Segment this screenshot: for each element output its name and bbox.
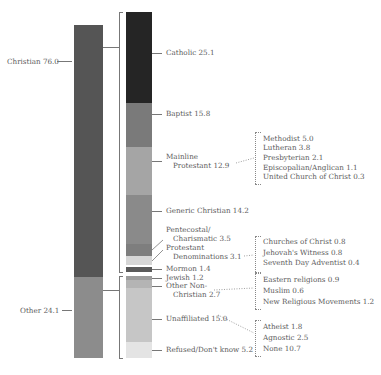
mainline-item: Methodist 5.0: [263, 134, 314, 143]
mainline-item: United Church of Christ 0.3: [263, 172, 365, 181]
unaffiliated-item: None 10.7: [263, 344, 301, 353]
leader-jewish: [152, 278, 162, 279]
other-nc-item: Muslim 0.6: [263, 286, 304, 295]
leader-refused: [152, 350, 162, 351]
leader-unaffiliated: [152, 319, 162, 320]
denom-item: Seventh Day Adventist 0.4: [263, 258, 360, 267]
leader-other-nc: [152, 286, 162, 287]
denom-item: Jehovah's Witness 0.8: [263, 248, 342, 257]
unaffiliated-item: Agnostic 2.5: [263, 333, 308, 342]
label-unaffiliated: Unaffiliated 15.0: [166, 314, 227, 323]
mainline-item: Presbyterian 2.1: [263, 153, 323, 162]
denom-item: Churches of Christ 0.8: [263, 237, 346, 246]
leader-mormon: [152, 269, 162, 270]
bracket-other-nc: [255, 273, 256, 309]
other-nc-item: New Religious Movements 1.2: [263, 297, 374, 306]
other-nc-item: Eastern religions 0.9: [263, 275, 339, 284]
label-other-nc-1: Other Non-: [166, 281, 207, 290]
bracket-unaffiliated: [255, 320, 256, 356]
label-other-nc-2: Christian 2.7: [173, 290, 220, 299]
unaffiliated-item: Atheist 1.8: [263, 322, 302, 331]
bracket-mainline: [255, 132, 256, 184]
label-refused: Refused/Don't know 5.2: [166, 345, 253, 354]
label-mormon: Mormon 1.4: [166, 264, 211, 273]
mainline-item: Lutheran 3.8: [263, 143, 310, 152]
bracket-denoms: [255, 236, 256, 272]
mainline-item: Episcopalian/Anglican 1.1: [263, 163, 358, 172]
